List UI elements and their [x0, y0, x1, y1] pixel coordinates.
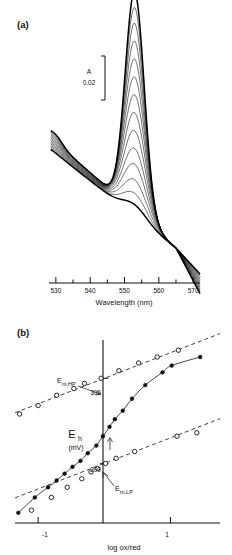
data-point-open — [65, 485, 69, 489]
data-point-filled — [198, 355, 202, 359]
em-hp-label-sub: m,HP — [62, 381, 76, 387]
data-point-filled — [33, 496, 37, 500]
data-point-open — [17, 412, 21, 416]
panel-a: (a) A 0.02 530540550560570 Wavelength (n… — [17, 0, 200, 307]
panel-a-tick-label: 550 — [119, 287, 130, 294]
data-point-filled — [86, 451, 90, 455]
curve-marker-arrow — [108, 438, 113, 451]
figure-root: (a) A 0.02 530540550560570 Wavelength (n… — [0, 0, 232, 555]
panel-b-axes — [15, 340, 220, 523]
spectrum-trace — [51, 94, 200, 284]
data-point-open — [80, 477, 84, 481]
data-point-filled — [143, 383, 147, 387]
panel-b-ylabel-E: E — [68, 428, 75, 440]
panel-a-tick-label: 530 — [50, 287, 61, 294]
data-point-open — [103, 461, 107, 465]
data-point-open — [176, 348, 180, 352]
panel-a-xlabel: Wavelength (nm) — [96, 298, 153, 307]
panel-a-tick-labels: 530540550560570 — [50, 287, 199, 294]
panel-a-xaxis: 530540550560570 Wavelength (nm) — [49, 277, 200, 307]
spectra-traces — [51, 0, 200, 294]
data-point-filled — [63, 472, 67, 476]
data-point-filled — [130, 397, 134, 401]
data-point-open — [155, 355, 159, 359]
data-point-open — [114, 456, 118, 460]
panel-a-label: (a) — [17, 19, 29, 30]
spectrum-trace — [51, 144, 200, 279]
panel-a-tick-label: 570 — [188, 287, 199, 294]
panel-b: (b) 300 200 -1 1 log ox/red E h (mV — [15, 327, 220, 552]
data-point-open — [82, 381, 86, 385]
data-point-open — [29, 508, 33, 512]
data-point-filled — [16, 511, 20, 515]
titration-curve-path — [18, 357, 200, 513]
data-point-open — [49, 495, 53, 499]
panel-b-ylabel-units: (mV) — [68, 444, 83, 452]
scalebar-bracket-icon — [101, 56, 105, 100]
data-point-filled — [46, 485, 50, 489]
annotation-em-hp: E m,HP — [57, 377, 101, 395]
panel-a-ticks — [56, 277, 193, 283]
spectrum-trace — [51, 130, 200, 281]
data-point-open — [132, 449, 136, 453]
data-point-filled — [108, 425, 112, 429]
panel-b-label: (b) — [17, 327, 29, 338]
data-point-open — [99, 376, 103, 380]
data-point-filled — [121, 409, 125, 413]
spectrum-trace — [51, 112, 200, 282]
data-point-filled — [71, 465, 75, 469]
data-point-open — [54, 393, 58, 397]
scalebar-a: A 0.02 — [83, 56, 105, 100]
em-lp-leader-line — [104, 473, 114, 486]
spectrum-trace — [51, 0, 200, 294]
spectrum-trace — [51, 149, 200, 274]
panel-b-xlabel: log ox/red — [108, 543, 141, 552]
panel-b-x-ticks — [38, 517, 170, 523]
scalebar-value: 0.02 — [83, 79, 96, 86]
panel-b-titration-curve — [18, 357, 200, 513]
panel-b-ylabel-sub: h — [78, 435, 82, 442]
data-point-open — [195, 431, 199, 435]
data-point-filled — [94, 444, 98, 448]
data-point-open — [117, 368, 121, 372]
spectrum-trace — [51, 77, 200, 286]
ytick-label-200: 200 — [90, 466, 101, 473]
scalebar-symbol: A — [87, 68, 92, 75]
panel-b-y-ticks — [100, 378, 108, 463]
data-point-open — [36, 403, 40, 407]
data-point-filled — [170, 364, 174, 368]
xtick-label-minus1: -1 — [42, 531, 48, 538]
data-point-filled — [101, 434, 105, 438]
annotation-em-lp: E m,LP — [103, 472, 133, 495]
panel-b-x-tick-labels: -1 1 — [42, 531, 169, 538]
xtick-label-1: 1 — [165, 531, 169, 538]
data-point-filled — [161, 370, 165, 374]
data-point-open — [136, 361, 140, 365]
spectrum-trace — [51, 145, 200, 278]
panel-b-y-tick-labels: 300 200 — [90, 389, 101, 473]
data-point-filled — [55, 479, 59, 483]
data-point-filled — [79, 459, 83, 463]
panel-a-tick-label: 560 — [153, 287, 164, 294]
panel-b-ylabel: E h (mV) — [68, 428, 83, 452]
panel-a-tick-label: 540 — [85, 287, 96, 294]
data-point-filled — [113, 417, 117, 421]
nernst-fit-line — [15, 334, 220, 413]
data-point-open — [175, 434, 179, 438]
em-lp-label-sub: m,LP — [120, 489, 133, 495]
